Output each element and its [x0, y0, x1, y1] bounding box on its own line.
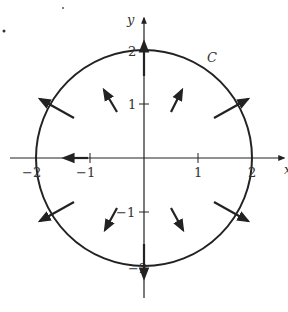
x-tick-label: −2 [22, 165, 41, 180]
y-axis-label: y [126, 12, 135, 27]
arrow-icon [171, 208, 183, 230]
x-tick-label: 1 [194, 165, 202, 180]
y-tick-label: 1 [128, 97, 136, 112]
stray-dot [3, 30, 6, 33]
y-tick-label: 2 [128, 44, 136, 59]
x-axis [10, 153, 284, 163]
y-tick-label: −1 [116, 205, 135, 220]
curve-label: C [207, 50, 217, 65]
arrow-icon [104, 90, 117, 112]
x-tick-label: 2 [248, 165, 256, 180]
arrow-icon [214, 202, 248, 221]
arrow-icon [171, 90, 182, 112]
arrow-icon [40, 202, 74, 221]
x-tick-label: −1 [76, 165, 95, 180]
vector-field-diagram: y x C −2 −1 1 2 2 1 −1 −2 [0, 0, 288, 312]
stray-dot [62, 7, 64, 9]
x-axis-label: x [284, 162, 288, 177]
